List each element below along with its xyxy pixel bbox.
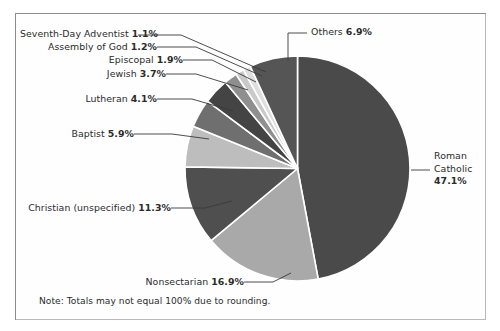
label-nonsectarian-name: Nonsectarian — [146, 276, 209, 287]
label-seventh-day-adventist: Seventh-Day Adventist 1.1% — [20, 28, 138, 41]
label-jewish-value: 3.7% — [140, 68, 166, 79]
label-baptist: Baptist 5.9% — [40, 128, 134, 141]
label-others-value: 6.9% — [346, 26, 372, 37]
label-christian-unspecified-name: Christian (unspecified) — [28, 202, 135, 213]
label-assembly-of-god: Assembly of God 1.2% — [40, 41, 157, 54]
label-lutheran-name: Lutheran — [85, 93, 127, 104]
label-christian-unspecified-value: 11.3% — [138, 202, 171, 213]
label-baptist-value: 5.9% — [108, 128, 134, 139]
label-nonsectarian-value: 16.9% — [211, 276, 244, 287]
pie-slice-group — [185, 56, 410, 281]
label-roman-catholic-name-line2: Catholic — [434, 163, 472, 176]
label-roman-catholic-name-line1: Roman — [434, 150, 472, 163]
label-others: Others 6.9% — [311, 26, 372, 39]
label-jewish-name: Jewish — [107, 68, 137, 79]
chart-note: Note: Totals may not equal 100% due to r… — [39, 296, 270, 306]
label-lutheran: Lutheran 4.1% — [47, 93, 157, 106]
label-episcopal-name: Episcopal — [109, 54, 154, 65]
label-roman-catholic: Roman Catholic 47.1% — [434, 150, 472, 188]
label-episcopal: Episcopal 1.9% — [65, 54, 183, 67]
label-others-name: Others — [311, 26, 343, 37]
label-seventh-day-adventist-value: 1.1% — [132, 28, 158, 39]
label-assembly-of-god-value: 1.2% — [131, 41, 157, 52]
pie-chart-figure: Seventh-Day Adventist 1.1% Assembly of G… — [0, 0, 500, 331]
label-seventh-day-adventist-name: Seventh-Day Adventist — [20, 28, 129, 39]
label-assembly-of-god-name: Assembly of God — [48, 41, 128, 52]
label-lutheran-value: 4.1% — [131, 93, 157, 104]
label-nonsectarian: Nonsectarian 16.9% — [128, 276, 244, 289]
label-christian-unspecified: Christian (unspecified) 11.3% — [25, 202, 171, 215]
label-jewish: Jewish 3.7% — [60, 68, 166, 81]
pie-slice-roman-catholic — [298, 56, 411, 279]
label-roman-catholic-value: 47.1% — [434, 175, 472, 188]
label-episcopal-value: 1.9% — [157, 54, 183, 65]
label-baptist-name: Baptist — [71, 128, 104, 139]
